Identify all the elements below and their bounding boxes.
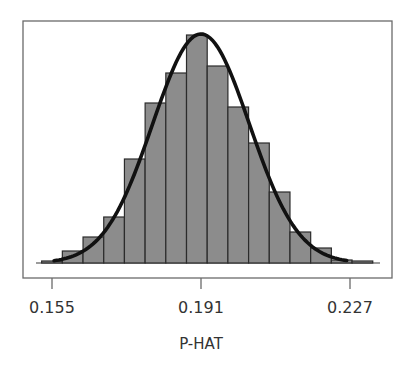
histogram-bar [228, 107, 249, 263]
histogram-bar [187, 35, 208, 263]
histogram-bar [145, 103, 166, 263]
x-tick-label: 0.227 [327, 298, 373, 317]
x-tick-label: 0.191 [178, 298, 224, 317]
x-axis-ticks: 0.1550.1910.227 [29, 278, 373, 317]
x-axis-title: P-HAT [179, 335, 224, 353]
histogram-bar [249, 143, 270, 263]
histogram-bar [352, 261, 373, 263]
x-tick-label: 0.155 [29, 298, 75, 317]
histogram-bar [104, 217, 125, 263]
histogram-chart: 0.1550.1910.227 P-HAT [0, 0, 419, 370]
histogram-bar [166, 73, 187, 263]
histogram-bar [207, 66, 228, 263]
